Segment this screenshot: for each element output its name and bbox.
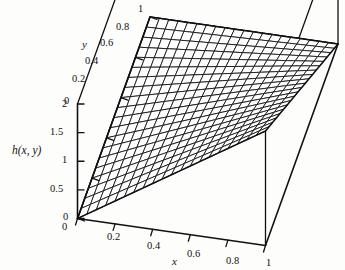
surface-wireframe-mesh xyxy=(78,17,339,219)
x-tick-label-5: 1 xyxy=(266,258,271,269)
z-tick-label-1: 0.5 xyxy=(50,184,63,195)
y-tick-label-3: 0.6 xyxy=(100,38,113,49)
y-tick-label-1: 0.2 xyxy=(72,74,85,85)
z-tick-label-0: 0 xyxy=(63,212,68,223)
z-tick-label-4: 2 xyxy=(62,99,67,110)
x-axis-title: x xyxy=(172,256,177,267)
y-tick-label-5: 1 xyxy=(138,4,143,15)
y-axis-title: y xyxy=(82,39,87,50)
z-axis-title: h(x, y) xyxy=(12,145,41,157)
y-tick-label-2: 0.4 xyxy=(85,56,98,67)
y-tick-label-4: 0.8 xyxy=(116,22,129,33)
surface-plot-figure: 0 0.2 0.4 0.6 0.8 1 x 0 0.2 0.4 0.6 0.8 … xyxy=(0,0,345,270)
x-tick-label-2: 0.4 xyxy=(147,241,160,252)
z-tick-label-2: 1 xyxy=(62,155,67,166)
x-tick-label-3: 0.6 xyxy=(187,249,200,260)
x-tick-label-1: 0.2 xyxy=(107,232,120,243)
x-tick-label-0: 0 xyxy=(62,222,67,233)
z-tick-label-3: 1.5 xyxy=(50,127,63,138)
x-tick-label-4: 0.8 xyxy=(226,256,239,267)
